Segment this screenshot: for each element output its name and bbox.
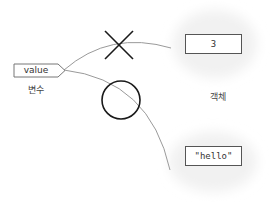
cross-icon <box>105 31 133 59</box>
diagram-canvas <box>0 0 274 202</box>
variable-caption: 변수 <box>24 83 48 96</box>
circle-icon <box>102 81 140 119</box>
object-caption: 객체 <box>205 90 231 103</box>
new-reference-line <box>64 70 170 170</box>
variable-name: value <box>14 64 58 77</box>
object-box-3: 3 <box>185 34 242 54</box>
reference-diagram: value 변수 3 객체 "hello" <box>0 0 274 202</box>
object-box-hello: "hello" <box>185 146 242 166</box>
